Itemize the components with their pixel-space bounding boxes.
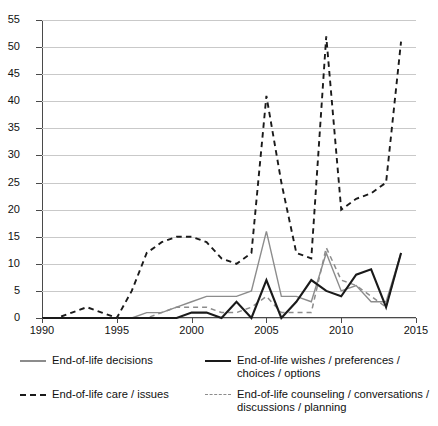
legend-item-end-of-life-counseling: End-of-life counseling / conversations /…: [205, 388, 433, 415]
y-tick-label: 10: [0, 258, 20, 269]
legend-label: End-of-life care / issues: [52, 388, 169, 401]
series-line-end-of-life-decisions: [42, 231, 401, 318]
dashed-gray-line-icon: [205, 388, 231, 401]
y-tick-mark: [36, 20, 42, 21]
chart-legend: End-of-life decisions End-of-life wishes…: [0, 352, 438, 418]
x-tick-label: 1990: [19, 324, 65, 336]
legend-item-end-of-life-decisions: End-of-life decisions: [20, 354, 153, 367]
legend-label: End-of-life wishes / preferences / choic…: [237, 354, 430, 381]
y-tick-label: 25: [0, 177, 20, 188]
y-tick-mark: [36, 128, 42, 129]
chart-figure: End-of-life decisions End-of-life wishes…: [0, 0, 438, 426]
y-tick-mark: [36, 101, 42, 102]
legend-label: End-of-life decisions: [52, 354, 153, 367]
y-tick-mark: [36, 264, 42, 265]
y-tick-label: 20: [0, 204, 20, 215]
y-tick-label: 45: [0, 68, 20, 79]
y-tick-mark: [36, 183, 42, 184]
y-tick-label: 50: [0, 41, 20, 52]
y-tick-label: 5: [0, 285, 20, 296]
y-tick-label: 40: [0, 95, 20, 106]
y-tick-mark: [36, 155, 42, 156]
x-tick-mark: [266, 318, 267, 323]
x-tick-mark: [117, 318, 118, 323]
y-tick-mark: [36, 291, 42, 292]
y-tick-label: 30: [0, 149, 20, 160]
x-tick-mark: [42, 318, 43, 323]
series-lines-group: [42, 20, 416, 318]
legend-label: End-of-life counseling / conversations /…: [237, 388, 433, 415]
y-tick-mark: [36, 47, 42, 48]
legend-item-end-of-life-wishes: End-of-life wishes / preferences / choic…: [205, 354, 430, 381]
solid-black-line-icon: [205, 354, 231, 367]
legend-item-end-of-life-care-issues: End-of-life care / issues: [20, 388, 169, 401]
y-tick-label: 55: [0, 14, 20, 25]
x-tick-label: 1995: [94, 324, 140, 336]
y-tick-mark: [36, 74, 42, 75]
y-tick-label: 35: [0, 122, 20, 133]
dashed-black-line-icon: [20, 388, 46, 401]
x-tick-label: 2010: [318, 324, 364, 336]
x-tick-mark: [192, 318, 193, 323]
series-line-end-of-life-wishes: [42, 253, 401, 318]
series-line-end-of-life-care-issues: [42, 36, 401, 318]
solid-gray-line-icon: [20, 354, 46, 367]
x-tick-mark: [416, 318, 417, 323]
x-tick-mark: [341, 318, 342, 323]
x-tick-label: 2015: [393, 324, 438, 336]
y-tick-mark: [36, 210, 42, 211]
x-tick-label: 2000: [169, 324, 215, 336]
y-tick-label: 15: [0, 231, 20, 242]
x-tick-label: 2005: [243, 324, 289, 336]
y-tick-mark: [36, 237, 42, 238]
y-tick-label: 0: [0, 312, 20, 323]
